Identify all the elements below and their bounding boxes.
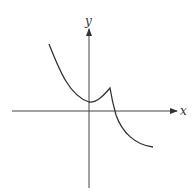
curve <box>49 44 153 147</box>
x-axis-label: x <box>180 104 187 118</box>
y-axis-label: y <box>84 14 92 28</box>
function-graph: x y <box>0 0 194 194</box>
